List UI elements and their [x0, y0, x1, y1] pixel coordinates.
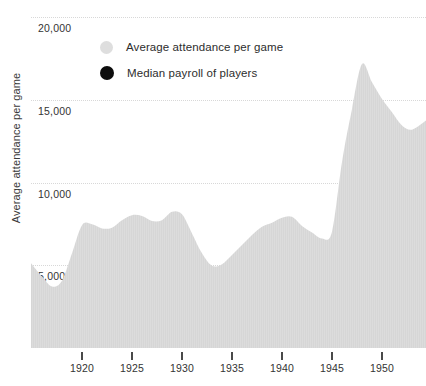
chart-legend: Average attendance per game Median payro… — [100, 34, 283, 86]
x-tick-label-1920: 1920 — [70, 362, 94, 374]
x-tick-mark-1945 — [331, 352, 333, 360]
legend-label-median-payroll: Median payroll of players — [127, 67, 257, 79]
legend-item-median-payroll: Median payroll of players — [100, 60, 283, 86]
x-tick-mark-1920 — [81, 352, 83, 360]
x-tick-mark-1930 — [181, 352, 183, 360]
legend-item-average-attendance: Average attendance per game — [100, 34, 283, 60]
x-tick-label-1925: 1925 — [120, 362, 144, 374]
x-tick-label-1940: 1940 — [270, 362, 294, 374]
x-tick-label-1945: 1945 — [320, 362, 344, 374]
legend-swatch-area-icon — [100, 41, 113, 54]
x-tick-mark-1925 — [131, 352, 133, 360]
x-tick-mark-1935 — [231, 352, 233, 360]
y-axis-title: Average attendance per game — [10, 58, 22, 238]
x-tick-label-1935: 1935 — [220, 362, 244, 374]
x-tick-mark-1950 — [381, 352, 383, 360]
x-tick-label-1950: 1950 — [370, 362, 394, 374]
legend-label-average-attendance: Average attendance per game — [126, 41, 283, 53]
x-tick-mark-1940 — [281, 352, 283, 360]
attendance-chart: Average attendance per game 20,000 15,00… — [0, 0, 426, 386]
legend-swatch-dot-icon — [100, 66, 114, 80]
x-tick-label-1930: 1930 — [170, 362, 194, 374]
